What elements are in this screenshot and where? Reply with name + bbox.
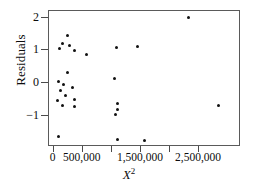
data-point [68, 44, 71, 47]
y-axis-tick-label: 1 [0, 43, 39, 55]
y-axis-tick [41, 115, 48, 116]
y-axis-tick [41, 17, 48, 18]
data-point [61, 42, 64, 45]
data-point [114, 113, 117, 116]
x-axis-label-text: X [123, 167, 131, 182]
scatter-plot-figure: Residuals X2 210−10500,0001,500,0002,500… [0, 0, 258, 190]
data-point [85, 53, 88, 56]
data-point [64, 94, 67, 97]
y-axis-tick-label: 0 [0, 76, 39, 88]
data-point [58, 47, 61, 50]
plot-area [48, 10, 240, 146]
data-point [56, 99, 59, 102]
data-point [116, 138, 119, 141]
data-point [115, 46, 118, 49]
data-point [136, 45, 139, 48]
y-axis-tick-label: −1 [0, 109, 39, 121]
x-axis-tick-label: 2,500,000 [158, 152, 238, 164]
y-axis-tick [41, 82, 48, 83]
x-axis-label-exponent: 2 [131, 166, 136, 176]
data-point [71, 86, 74, 89]
data-point [57, 135, 60, 138]
y-axis-label: Residuals [13, 10, 29, 110]
data-point [217, 104, 220, 107]
data-point [116, 108, 119, 111]
data-point [113, 77, 116, 80]
y-axis-tick-label: 2 [0, 11, 39, 23]
data-point [143, 139, 146, 142]
data-point [73, 105, 76, 108]
data-point [73, 49, 76, 52]
data-point [61, 104, 64, 107]
data-point [73, 98, 76, 101]
data-point [116, 102, 119, 105]
data-point [62, 83, 65, 86]
data-point [57, 80, 60, 83]
x-axis-label: X2 [0, 166, 258, 183]
data-point [66, 71, 69, 74]
data-point [59, 89, 62, 92]
data-point [187, 16, 190, 19]
data-point [66, 34, 69, 37]
y-axis-tick [41, 49, 48, 50]
